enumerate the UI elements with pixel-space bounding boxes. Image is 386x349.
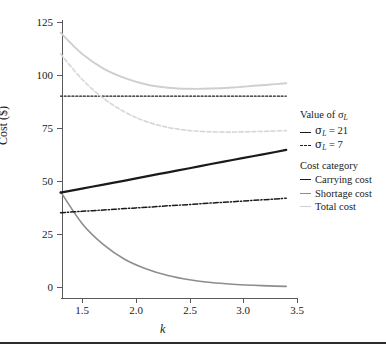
legend-item-carrying-cost[interactable]: Carrying cost	[300, 173, 386, 187]
figure-bottom-rule	[0, 342, 386, 344]
legend-title-sigma: Value of σL	[300, 108, 386, 125]
series-0	[61, 150, 287, 193]
legend-item-shortage-cost[interactable]: Shortage cost	[300, 187, 386, 201]
legend-title-category: Cost category	[300, 159, 386, 173]
line-solid-mid-icon	[300, 187, 313, 201]
legend-item-sigma-7-label: σL = 7	[315, 138, 343, 155]
series-1	[61, 198, 287, 213]
legend-title-sigma-text: Value of σ	[300, 109, 344, 120]
line-solid-dark-icon	[300, 173, 313, 187]
line-solid-light-icon	[300, 200, 313, 214]
legend-item-total-cost[interactable]: Total cost	[300, 200, 386, 214]
legend-title-sigma-subscript: L	[344, 113, 348, 122]
chart-figure: Cost ($) 0 25 50 75 100 125 1.5 2.0 2.5 …	[0, 0, 386, 349]
legend-item-shortage-cost-label: Shortage cost	[315, 187, 372, 201]
legend-item-total-cost-label: Total cost	[315, 200, 356, 214]
series-4	[61, 54, 287, 132]
line-dashdot-icon	[300, 139, 313, 153]
legend-item-carrying-cost-label: Carrying cost	[315, 173, 372, 187]
chart-legend: Value of σL σL = 21 σL = 7 Cost category…	[300, 108, 386, 214]
legend-item-sigma-7[interactable]: σL = 7	[300, 139, 386, 153]
series-3	[61, 33, 287, 89]
legend-item-sigma-21[interactable]: σL = 21	[300, 126, 386, 140]
line-solid-icon	[300, 126, 313, 140]
